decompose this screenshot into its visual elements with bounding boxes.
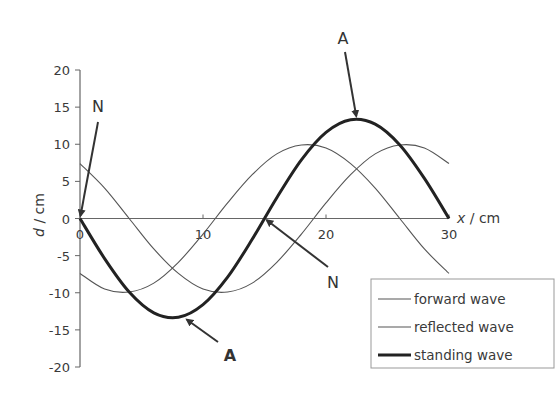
annotation-layer: NANA — [81, 29, 357, 365]
annotation-arrow — [187, 320, 218, 342]
x-tick-label: 20 — [318, 227, 335, 242]
y-tick-label: 15 — [53, 100, 70, 115]
y-tick-label: 5 — [62, 174, 70, 189]
y-tick-label: 10 — [53, 137, 70, 152]
legend: forward wavereflected wavestanding wave — [371, 279, 554, 368]
y-tick-label: -10 — [49, 286, 70, 301]
legend-label: reflected wave — [414, 319, 514, 335]
annotation-arrow — [345, 52, 356, 116]
antinode-label: A — [338, 29, 349, 48]
y-tick-label: 0 — [62, 212, 70, 227]
y-tick-label: -15 — [49, 323, 70, 338]
y-axis-title: d / cm — [31, 193, 47, 237]
y-tick-label: -5 — [57, 249, 70, 264]
x-tick-label: 30 — [441, 227, 458, 242]
x-axis-title: x / cm — [456, 210, 500, 226]
antinode-label: A — [224, 346, 237, 365]
annotation-arrow — [81, 122, 98, 216]
y-ticks: 20151050-5-10-15-20 — [49, 63, 80, 375]
node-label: N — [92, 97, 104, 116]
y-tick-label: 20 — [53, 63, 70, 78]
legend-label: standing wave — [414, 347, 513, 363]
node-label: N — [327, 273, 339, 292]
y-tick-label: -20 — [49, 360, 70, 375]
standing-wave-chart: 20151050-5-10-15-20 0102030 d / cm x / c… — [0, 0, 560, 393]
x-tick-label: 0 — [76, 227, 84, 242]
legend-label: forward wave — [414, 291, 506, 307]
